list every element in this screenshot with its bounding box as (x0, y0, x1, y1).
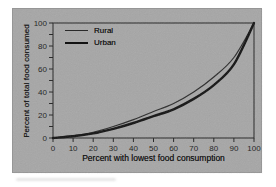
x-tick-label: 30 (109, 144, 118, 153)
lorenz-curve-plot: 0102030405060708090100020406080100 (13, 9, 263, 174)
x-tick-label: 100 (247, 144, 261, 153)
x-tick-label: 70 (189, 144, 198, 153)
legend-label-urban: Urban (94, 38, 116, 47)
y-tick-label: 100 (34, 19, 48, 28)
x-tick-label: 40 (129, 144, 138, 153)
urban-line-sample-icon (65, 42, 88, 44)
chart-panel: 0102030405060708090100020406080100 Perce… (12, 8, 262, 173)
y-tick-label: 60 (38, 65, 47, 74)
y-axis-label: Percent of total food consumed (22, 24, 31, 138)
scanned-page: 0102030405060708090100020406080100 Perce… (0, 0, 276, 187)
x-tick-label: 80 (209, 144, 218, 153)
x-tick-label: 60 (169, 144, 178, 153)
x-tick-label: 50 (149, 144, 158, 153)
rural-line-sample-icon (65, 30, 88, 31)
scan-smudge (16, 178, 116, 181)
x-axis-label: Percent with lowest food consumption (53, 153, 254, 163)
legend-item-urban: Urban (65, 38, 116, 47)
y-tick-label: 80 (38, 42, 47, 51)
legend-item-rural: Rural (65, 26, 116, 35)
x-tick-label: 10 (69, 144, 78, 153)
y-tick-label: 20 (38, 111, 47, 120)
y-tick-label: 40 (38, 88, 47, 97)
x-tick-label: 20 (89, 144, 98, 153)
legend-label-rural: Rural (94, 26, 113, 35)
x-tick-label: 90 (229, 144, 238, 153)
legend: Rural Urban (65, 26, 116, 47)
y-tick-label: 0 (43, 134, 48, 143)
x-tick-label: 0 (51, 144, 56, 153)
